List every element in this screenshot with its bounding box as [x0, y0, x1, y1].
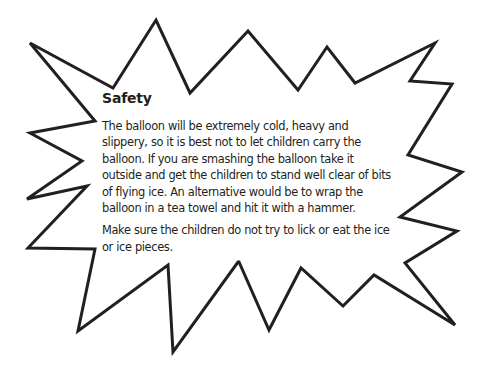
callout-paragraph: The balloon will be extremely cold, heav… — [102, 118, 392, 216]
callout-title: Safety — [102, 90, 392, 106]
safety-callout: Safety The balloon will be extremely col… — [102, 90, 392, 261]
callout-paragraph: Make sure the children do not try to lic… — [102, 222, 392, 255]
